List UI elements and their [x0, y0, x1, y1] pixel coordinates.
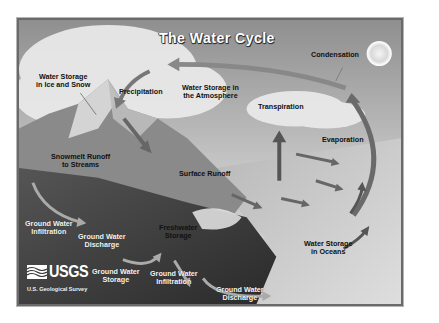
diagram-title: The Water Cycle [159, 30, 275, 46]
label-ice-snow: Water Storage in Ice and Snow [36, 73, 90, 89]
usgs-wave-icon [27, 265, 47, 279]
label-ocean-storage: Water Storage in Oceans [304, 240, 352, 256]
usgs-wordmark: USGS [49, 263, 88, 280]
label-gw-discharge-left: Ground Water Discharge [78, 233, 126, 249]
label-gw-storage: Ground Water Storage [92, 268, 140, 284]
label-gw-discharge-right: Ground Water Discharge [216, 286, 264, 302]
label-evaporation: Evaporation [322, 136, 364, 144]
label-freshwater-storage: Freshwater Storage [159, 224, 197, 240]
label-transpiration: Transpiration [258, 103, 304, 111]
label-gw-infiltration-left: Ground Water Infiltration [25, 220, 73, 236]
label-gw-infiltration-mid: Ground Water Infiltration [150, 270, 198, 286]
label-condensation: Condensation [311, 51, 359, 59]
usgs-logo: USGS [27, 263, 95, 280]
diagram-frame: The Water Cycle Condensation Water Stora… [17, 18, 403, 306]
sun-icon [367, 42, 391, 66]
label-atmosphere: Water Storage in the Atmosphere [182, 84, 239, 100]
label-surface-runoff: Surface Runoff [179, 170, 231, 178]
label-precipitation: Precipitation [119, 88, 163, 96]
usgs-subtitle: U.S. Geological Survey [27, 286, 87, 292]
label-snowmelt-runoff: Snowmelt Runoff to Streams [51, 153, 110, 169]
